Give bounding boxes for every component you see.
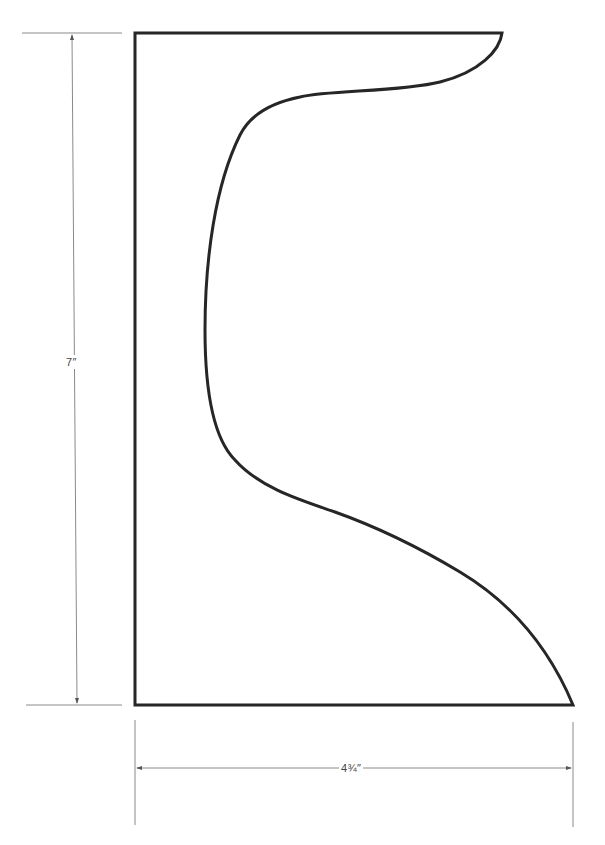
width-dimension-label: 4¾″	[339, 761, 363, 775]
height-arrow-top-icon	[70, 34, 74, 40]
width-arrow-right-icon	[566, 766, 572, 770]
height-arrow-bottom-icon	[75, 698, 79, 704]
width-arrow-left-icon	[136, 766, 142, 770]
pattern-drawing	[0, 0, 605, 845]
template-outline	[135, 33, 573, 705]
height-dimension-line	[72, 35, 77, 703]
height-dimension-label: 7″	[64, 355, 79, 369]
